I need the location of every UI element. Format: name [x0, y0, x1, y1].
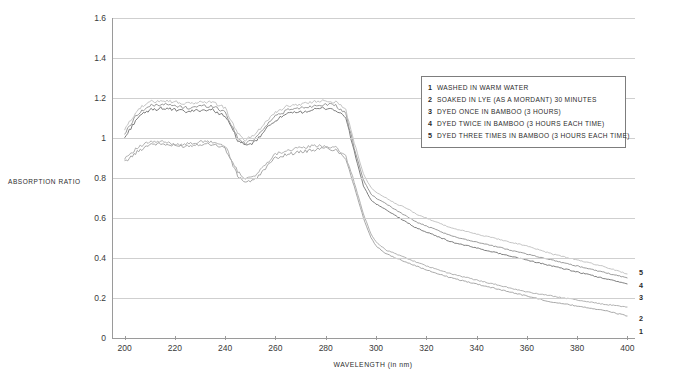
y-tick-label: 1.2 — [94, 93, 106, 103]
gridline — [112, 218, 635, 219]
series-end-labels: 54321 — [639, 0, 659, 381]
gridline — [112, 178, 635, 179]
x-tick — [275, 336, 276, 340]
legend-item-label: WASHED IN WARM WATER — [437, 82, 529, 94]
x-tick — [376, 336, 377, 340]
x-axis-title: WAVELENGTH (in nm) — [334, 361, 413, 368]
legend-item-label: DYED THREE TIMES IN BAMBOO (3 HOURS EACH… — [437, 130, 630, 142]
y-tick-label: 0.4 — [94, 253, 106, 263]
legend-item-label: DYED ONCE IN BAMBOO (3 HOURS) — [437, 106, 561, 118]
legend-item: 4DYED TWICE IN BAMBOO (3 HOURS EACH TIME… — [428, 118, 619, 130]
y-tick-label: 0.8 — [94, 173, 106, 183]
plot-area: 1.61.41.210.80.60.40.2020022024026028030… — [112, 18, 635, 338]
series-end-label: 2 — [639, 314, 643, 323]
legend-item: 5DYED THREE TIMES IN BAMBOO (3 HOURS EAC… — [428, 130, 619, 142]
legend-item-number: 1 — [428, 82, 437, 94]
y-axis-line — [112, 18, 113, 338]
x-tick-label: 380 — [570, 343, 584, 353]
y-tick-label: 1.6 — [94, 13, 106, 23]
series-line-2 — [125, 141, 628, 307]
legend-item-number: 4 — [428, 118, 437, 130]
x-tick — [627, 336, 628, 340]
y-tick-label: 1 — [101, 133, 106, 143]
x-tick — [577, 336, 578, 340]
x-tick — [527, 336, 528, 340]
legend-item: 2SOAKED IN LYE (AS A MORDANT) 30 MINUTES — [428, 94, 619, 106]
x-tick — [125, 336, 126, 340]
x-tick-label: 220 — [168, 343, 182, 353]
legend-item-label: SOAKED IN LYE (AS A MORDANT) 30 MINUTES — [437, 94, 597, 106]
legend-item: 3DYED ONCE IN BAMBOO (3 HOURS) — [428, 106, 619, 118]
y-axis-title: ABSORPTION RATIO — [8, 178, 81, 185]
x-tick-label: 240 — [218, 343, 232, 353]
x-tick — [225, 336, 226, 340]
x-tick — [326, 336, 327, 340]
y-tick-label: 0.6 — [94, 213, 106, 223]
legend: 1WASHED IN WARM WATER2SOAKED IN LYE (AS … — [421, 76, 626, 148]
x-tick-label: 340 — [469, 343, 483, 353]
gridline — [112, 18, 635, 19]
series-line-1 — [125, 143, 628, 316]
y-tick-label: 1.4 — [94, 53, 106, 63]
legend-item-number: 2 — [428, 94, 437, 106]
legend-item-number: 3 — [428, 106, 437, 118]
x-tick-label: 360 — [520, 343, 534, 353]
x-tick — [426, 336, 427, 340]
series-end-label: 4 — [639, 281, 643, 290]
x-tick-label: 260 — [268, 343, 282, 353]
legend-item: 1WASHED IN WARM WATER — [428, 82, 619, 94]
x-tick-label: 400 — [620, 343, 634, 353]
legend-item-label: DYED TWICE IN BAMBOO (3 HOURS EACH TIME) — [437, 118, 605, 130]
x-tick — [477, 336, 478, 340]
series-end-label: 3 — [639, 293, 643, 302]
chart-root: ABSORPTION RATIO WAVELENGTH (in nm) 1.61… — [0, 0, 679, 381]
series-end-label: 5 — [639, 268, 643, 277]
x-tick-label: 200 — [117, 343, 131, 353]
series-end-label: 1 — [639, 327, 643, 336]
x-tick-label: 280 — [319, 343, 333, 353]
x-tick-label: 320 — [419, 343, 433, 353]
gridline — [112, 298, 635, 299]
gridline — [112, 338, 635, 339]
y-tick-label: 0.2 — [94, 293, 106, 303]
y-tick-label: 0 — [101, 333, 106, 343]
x-tick — [175, 336, 176, 340]
legend-item-number: 5 — [428, 130, 437, 142]
gridline — [112, 258, 635, 259]
x-tick-label: 300 — [369, 343, 383, 353]
gridline — [112, 58, 635, 59]
